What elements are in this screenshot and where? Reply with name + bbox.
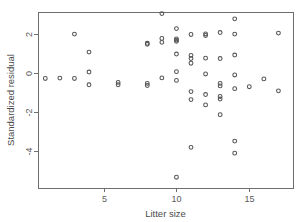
plot-frame: [39, 13, 294, 189]
data-point: [218, 57, 222, 61]
data-point: [160, 40, 164, 44]
data-point: [204, 56, 208, 60]
data-point: [189, 90, 193, 94]
x-tick-label: 15: [244, 194, 254, 204]
data-point: [204, 72, 208, 76]
data-point: [277, 89, 281, 93]
data-point: [218, 113, 222, 117]
data-point: [233, 87, 237, 91]
y-tick-label: -4: [24, 147, 34, 155]
data-point: [175, 52, 179, 56]
data-point: [175, 175, 179, 179]
data-point: [73, 77, 77, 81]
y-axis-title: Standardized residual: [5, 54, 16, 146]
data-point: [233, 17, 237, 21]
data-point: [87, 50, 91, 54]
x-tick-label: 5: [102, 194, 107, 204]
data-point: [87, 83, 91, 87]
data-point: [175, 70, 179, 74]
data-point: [58, 76, 62, 80]
residual-scatter-plot-figure: 5101520-2-4Litter sizeStandardized resid…: [0, 0, 308, 222]
data-point: [160, 37, 164, 41]
data-point: [189, 145, 193, 149]
x-axis-title: Litter size: [145, 208, 186, 219]
data-point: [277, 31, 281, 35]
data-point: [233, 73, 237, 77]
x-tick-label: 10: [171, 194, 181, 204]
data-point: [189, 33, 193, 37]
data-point: [233, 53, 237, 57]
plot-canvas: 5101520-2-4Litter sizeStandardized resid…: [0, 0, 308, 222]
data-point: [233, 139, 237, 143]
data-point: [204, 103, 208, 107]
y-tick-label: 2: [24, 32, 34, 37]
data-point: [218, 31, 222, 35]
data-point: [233, 32, 237, 36]
data-point: [160, 76, 164, 80]
data-point: [233, 151, 237, 155]
data-point: [247, 85, 251, 89]
data-point: [73, 32, 77, 36]
data-point: [175, 79, 179, 83]
y-tick-label: -2: [24, 108, 34, 116]
data-point: [189, 61, 193, 65]
data-point: [218, 84, 222, 88]
data-point: [262, 77, 266, 81]
data-point: [204, 93, 208, 97]
data-point: [189, 98, 193, 102]
data-point: [43, 77, 47, 81]
data-point-group: [43, 12, 280, 179]
y-tick-label: 0: [24, 71, 34, 76]
data-point: [218, 97, 222, 101]
data-point: [175, 27, 179, 31]
data-point: [87, 70, 91, 74]
